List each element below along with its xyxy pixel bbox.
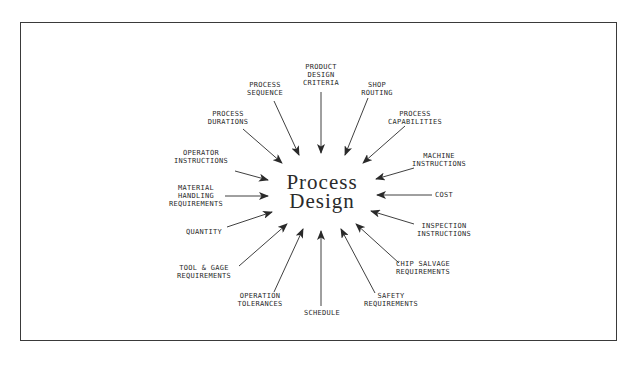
arrow-shop-routing xyxy=(345,98,368,155)
label-line: MACHINE xyxy=(412,152,466,160)
arrow-process-capabilities xyxy=(363,126,405,163)
arrow-operator-instructions xyxy=(235,171,268,180)
label-line: DESIGN xyxy=(303,71,339,79)
label-machine-instructions: MACHINE INSTRUCTIONS xyxy=(412,152,466,168)
label-safety-requirements: SAFETY REQUIREMENTS xyxy=(364,292,418,308)
label-line: QUANTITY xyxy=(186,228,222,236)
label-line: TOOL & GAGE xyxy=(177,264,231,272)
label-line: INSTRUCTIONS xyxy=(417,230,471,238)
label-material-handling-requirements: MATERIAL HANDLING REQUIREMENTS xyxy=(169,184,223,208)
label-cost: COST xyxy=(435,191,453,199)
label-line: INSTRUCTIONS xyxy=(174,157,228,165)
label-line: REQUIREMENTS xyxy=(364,300,418,308)
label-line: PROCESS xyxy=(247,81,283,89)
arrow-inspection-instructions xyxy=(371,211,414,224)
center-title: Process Design xyxy=(286,173,357,211)
label-line: PROCESS xyxy=(208,110,249,118)
arrow-process-sequence xyxy=(274,101,299,155)
arrow-process-durations xyxy=(243,129,282,163)
label-line: CHIP SALVAGE xyxy=(396,260,450,268)
label-schedule: SCHEDULE xyxy=(304,309,340,317)
label-line: REQUIREMENTS xyxy=(177,272,231,280)
arrow-operation-tolerances xyxy=(274,229,303,292)
label-process-capabilities: PROCESS CAPABILITIES xyxy=(388,110,442,126)
label-process-sequence: PROCESS SEQUENCE xyxy=(247,81,283,97)
label-line: SCHEDULE xyxy=(304,309,340,317)
arrow-chip-salvage-requirements xyxy=(356,224,399,263)
label-operator-instructions: OPERATOR INSTRUCTIONS xyxy=(174,149,228,165)
label-line: MATERIAL xyxy=(169,184,223,192)
arrow-quantity xyxy=(227,212,272,227)
label-inspection-instructions: INSPECTION INSTRUCTIONS xyxy=(417,222,471,238)
label-line: ROUTING xyxy=(361,89,393,97)
label-chip-salvage-requirements: CHIP SALVAGE REQUIREMENTS xyxy=(396,260,450,276)
label-line: INSPECTION xyxy=(417,222,471,230)
label-line: COST xyxy=(435,191,453,199)
label-line: CRITERIA xyxy=(303,79,339,87)
arrow-safety-requirements xyxy=(341,229,375,293)
label-quantity: QUANTITY xyxy=(186,228,222,236)
label-line: PROCESS xyxy=(388,110,442,118)
label-tool-gage-requirements: TOOL & GAGE REQUIREMENTS xyxy=(177,264,231,280)
label-process-durations: PROCESS DURATIONS xyxy=(208,110,249,126)
label-line: CAPABILITIES xyxy=(388,118,442,126)
label-line: TOLERANCES xyxy=(237,300,282,308)
arrow-machine-instructions xyxy=(376,168,414,179)
label-line: OPERATOR xyxy=(174,149,228,157)
label-line: SAFETY xyxy=(364,292,418,300)
label-operation-tolerances: OPERATION TOLERANCES xyxy=(237,292,282,308)
label-line: HANDLING xyxy=(169,192,223,200)
label-line: INSTRUCTIONS xyxy=(412,160,466,168)
label-product-design-criteria: PRODUCT DESIGN CRITERIA xyxy=(303,63,339,87)
label-line: REQUIREMENTS xyxy=(169,200,223,208)
arrow-tool-gage-requirements xyxy=(239,224,287,266)
label-line: DURATIONS xyxy=(208,118,249,126)
center-title-line2: Design xyxy=(286,192,357,211)
label-line: PRODUCT xyxy=(303,63,339,71)
label-line: OPERATION xyxy=(237,292,282,300)
label-shop-routing: SHOP ROUTING xyxy=(361,81,393,97)
label-line: SHOP xyxy=(361,81,393,89)
label-line: REQUIREMENTS xyxy=(396,268,450,276)
label-line: SEQUENCE xyxy=(247,89,283,97)
